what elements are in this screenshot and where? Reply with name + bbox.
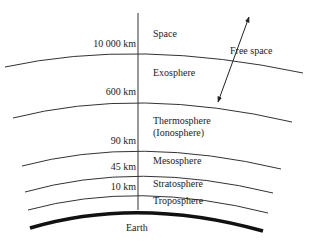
- free-space-label: Free space: [230, 45, 273, 56]
- altitude-label-10000km: 10 000 km: [93, 38, 136, 49]
- layer-label-ionosphere: (Ionosphere): [153, 127, 204, 139]
- layer-label-mesosphere: Mesosphere: [153, 155, 202, 166]
- earth-label: Earth: [126, 222, 148, 233]
- altitude-label-600km: 600 km: [106, 86, 137, 97]
- boundary-10km: [28, 196, 268, 213]
- altitude-label-10km: 10 km: [111, 181, 137, 192]
- layer-label-exosphere: Exosphere: [153, 67, 196, 78]
- boundary-90km: [22, 151, 281, 169]
- layer-label-stratosphere: Stratosphere: [153, 178, 204, 189]
- layer-label-troposphere: Troposphere: [153, 195, 204, 206]
- altitude-label-45km: 45 km: [111, 161, 137, 172]
- altitude-label-90km: 90 km: [111, 135, 137, 146]
- atmosphere-diagram: 10 000 km 600 km 90 km 45 km 10 km Space…: [0, 0, 314, 243]
- boundary-45km: [25, 176, 273, 193]
- layer-label-space: Space: [153, 28, 177, 39]
- layer-label-thermosphere: Thermosphere: [153, 115, 211, 126]
